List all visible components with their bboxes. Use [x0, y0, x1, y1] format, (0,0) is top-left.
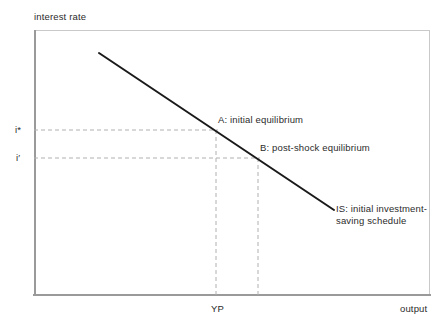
x-axis-label: output — [400, 303, 427, 315]
plot-frame — [34, 30, 430, 295]
y-axis-label: interest rate — [34, 11, 86, 23]
is-curve-diagram: interest rate i* i′ YP output A: initial… — [0, 0, 447, 333]
annotation-point-b: B: post-shock equilibrium — [260, 142, 370, 154]
y-tick-label-i-star: i* — [15, 124, 21, 136]
x-tick-label-yp: YP — [211, 303, 224, 315]
annotation-is-schedule: IS: initial investment- saving schedule — [336, 203, 436, 227]
annotation-is-schedule-line1: IS: initial investment- — [336, 203, 427, 214]
x-axis-line — [33, 294, 431, 296]
y-axis-line — [34, 30, 36, 296]
y-tick-label-i-prime: i′ — [16, 152, 20, 164]
annotation-is-schedule-line2: saving schedule — [336, 215, 406, 226]
annotation-point-a: A: initial equilibrium — [218, 114, 303, 126]
